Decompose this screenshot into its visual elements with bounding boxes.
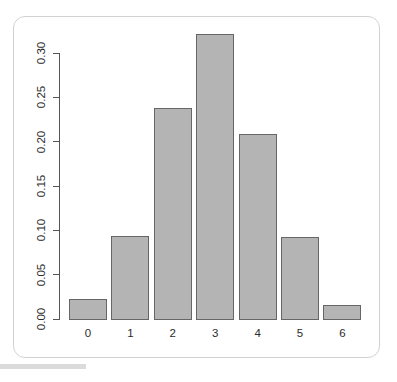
y-axis-tick-label-text: 0.20 bbox=[34, 130, 48, 152]
bar bbox=[281, 237, 319, 320]
x-axis-tick-label: 0 bbox=[76, 327, 100, 339]
x-axis-tick-label: 1 bbox=[118, 327, 142, 339]
y-axis-tick-label: 0.10 bbox=[14, 223, 52, 237]
y-axis-tick bbox=[53, 141, 60, 142]
bar bbox=[69, 299, 107, 320]
y-axis-tick-label: 0.30 bbox=[14, 46, 52, 60]
y-axis-tick-label-text: 0.15 bbox=[34, 175, 48, 197]
y-axis-tick-label-text: 0.05 bbox=[34, 263, 48, 285]
y-axis-tick-label: 0.05 bbox=[14, 268, 52, 282]
y-axis-tick-label-text: 0.10 bbox=[34, 219, 48, 241]
plot-area: 0.000.050.100.150.200.250.30 0123456 bbox=[14, 17, 381, 359]
x-axis-tick-label: 3 bbox=[203, 327, 227, 339]
y-axis-tick-label: 0.25 bbox=[14, 90, 52, 104]
y-axis-tick-label: 0.00 bbox=[14, 312, 52, 326]
y-axis-tick-label-text: 0.00 bbox=[34, 308, 48, 330]
x-axis-tick-label: 6 bbox=[330, 327, 354, 339]
y-axis-tick-label-text: 0.30 bbox=[34, 42, 48, 64]
y-axis-tick bbox=[53, 97, 60, 98]
bar bbox=[111, 236, 149, 320]
bar bbox=[154, 108, 192, 320]
y-axis-tick-label: 0.15 bbox=[14, 179, 52, 193]
page-bottom-strip bbox=[0, 364, 86, 369]
y-axis-tick bbox=[53, 230, 60, 231]
plot-card: 0.000.050.100.150.200.250.30 0123456 bbox=[13, 16, 380, 358]
y-axis-tick bbox=[53, 53, 60, 54]
bar bbox=[239, 134, 277, 320]
bar bbox=[323, 305, 361, 320]
y-axis-tick-label: 0.20 bbox=[14, 135, 52, 149]
y-axis-tick bbox=[53, 274, 60, 275]
bar bbox=[196, 34, 234, 320]
x-axis-tick-label: 2 bbox=[161, 327, 185, 339]
x-axis-tick-label: 4 bbox=[246, 327, 270, 339]
y-axis-tick bbox=[53, 186, 60, 187]
y-axis-tick-label-text: 0.25 bbox=[34, 86, 48, 108]
y-axis-tick bbox=[53, 319, 60, 320]
x-axis-tick-label: 5 bbox=[288, 327, 312, 339]
